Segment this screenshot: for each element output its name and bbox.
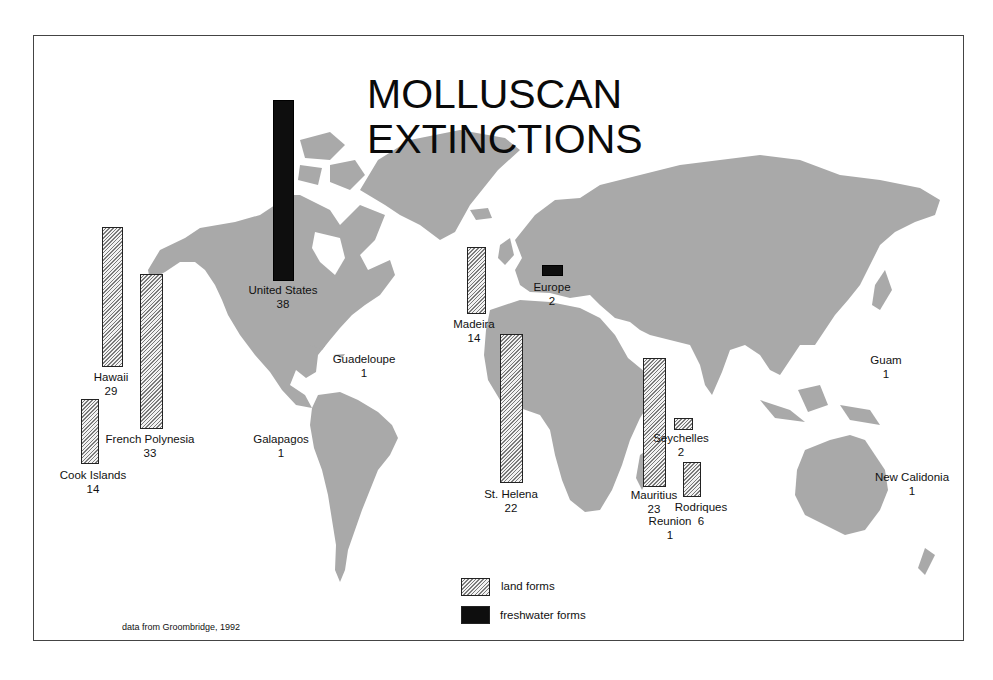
- location-name: Reunion: [649, 514, 692, 528]
- label-new-calidonia: New Calidonia 1: [875, 470, 949, 498]
- location-value: 1: [333, 366, 396, 380]
- south-america: [310, 392, 398, 582]
- legend-label-freshwater: freshwater forms: [500, 609, 586, 621]
- bar-mauritius: [643, 358, 666, 487]
- location-name: Galapagos: [253, 432, 309, 446]
- location-name: Cook Islands: [60, 468, 126, 482]
- location-name: Hawaii: [94, 370, 129, 384]
- legend-swatch-land: [461, 578, 490, 596]
- label-reunion: Reunion 1: [649, 514, 692, 542]
- label-hawaii: Hawaii 29: [94, 370, 129, 398]
- location-value: 1: [253, 446, 309, 460]
- location-name: Guam: [870, 353, 901, 367]
- label-seychelles: Seychelles 2: [653, 431, 709, 459]
- legend-label-land: land forms: [501, 580, 555, 592]
- location-name: Madeira: [453, 317, 495, 331]
- chart-title: MOLLUSCAN EXTINCTIONS: [367, 72, 643, 162]
- bar-seychelles: [674, 418, 693, 430]
- location-value: 33: [106, 446, 195, 460]
- label-mauritius: Mauritius 23: [631, 488, 678, 516]
- location-name: Seychelles: [653, 431, 709, 445]
- location-value: 29: [94, 384, 129, 398]
- label-french-polynesia: French Polynesia 33: [106, 432, 195, 460]
- location-name: Europe: [533, 280, 570, 294]
- label-st-helena: St. Helena 22: [484, 487, 538, 515]
- bar-madeira: [467, 247, 486, 314]
- bar-st-helena: [500, 334, 523, 483]
- location-value: 1: [870, 367, 901, 381]
- location-name: United States: [248, 283, 317, 297]
- legend-swatch-freshwater: [461, 606, 490, 624]
- label-guam: Guam 1: [870, 353, 901, 381]
- bar-europe: [542, 265, 563, 276]
- location-name: Guadeloupe: [333, 352, 396, 366]
- label-galapagos: Galapagos 1: [253, 432, 309, 460]
- location-value: 14: [453, 331, 495, 345]
- location-name: St. Helena: [484, 487, 538, 501]
- label-europe: Europe 2: [533, 280, 570, 308]
- location-value: 22: [484, 501, 538, 515]
- label-madeira: Madeira 14: [453, 317, 495, 345]
- location-value: 1: [649, 528, 692, 542]
- bar-united-states: [273, 100, 294, 281]
- location-value: 2: [533, 294, 570, 308]
- location-name: Mauritius: [631, 488, 678, 502]
- location-value: 2: [653, 445, 709, 459]
- location-name: Rodriques: [675, 500, 727, 514]
- location-name: French Polynesia: [106, 432, 195, 446]
- label-united-states: United States 38: [248, 283, 317, 311]
- location-value: 14: [60, 482, 126, 496]
- location-value: 38: [248, 297, 317, 311]
- data-source-credit: data from Groombridge, 1992: [122, 622, 240, 632]
- bar-rodriques: [683, 462, 701, 497]
- bar-french-polynesia: [140, 274, 163, 429]
- label-guadeloupe: Guadeloupe 1: [333, 352, 396, 380]
- bar-cook-islands: [81, 399, 99, 464]
- label-cook-islands: Cook Islands 14: [60, 468, 126, 496]
- title-line-1: MOLLUSCAN: [367, 72, 643, 117]
- location-value: 1: [875, 484, 949, 498]
- title-line-2: EXTINCTIONS: [367, 117, 643, 162]
- bar-hawaii: [102, 227, 123, 367]
- location-name: New Calidonia: [875, 470, 949, 484]
